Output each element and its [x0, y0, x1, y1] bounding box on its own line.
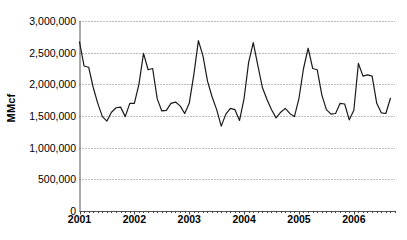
plot-area — [0, 0, 407, 240]
line-chart-svg — [0, 0, 407, 240]
chart-figure: MMcf 0500,0001,000,0001,500,0002,000,000… — [0, 0, 407, 240]
